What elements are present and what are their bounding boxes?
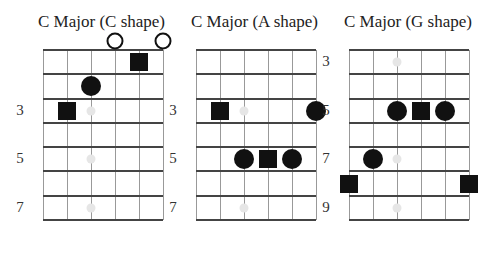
chord-tone-circle-icon [363,149,383,169]
chord-title: C Major (C shape) [38,12,165,32]
fret-number-label: 3 [316,53,336,70]
fretboard-grid [196,50,316,220]
fret-number-label: 5 [316,102,336,119]
fret-line [43,122,163,124]
inlay-dot-icon [393,203,402,212]
fret-number-label: 7 [163,199,183,216]
fret-line [196,146,316,148]
fret-line [43,49,163,51]
fret-line [196,195,316,197]
root-note-square-icon [460,175,478,193]
inlay-dot-icon [240,106,249,115]
inlay-dot-icon [87,203,96,212]
inlay-dot-icon [87,106,96,115]
open-string-icon [107,33,124,50]
fret-line [196,98,316,100]
fret-number-label: 5 [163,150,183,167]
root-note-square-icon [259,150,277,168]
fret-line [43,219,163,221]
chord-tone-circle-icon [234,149,254,169]
fret-line [43,170,163,172]
fret-line [196,49,316,51]
open-string-icon [155,33,172,50]
fret-line [349,170,469,172]
root-note-square-icon [58,102,76,120]
string-line [163,50,164,220]
fret-line [349,98,469,100]
fret-line [196,73,316,75]
fret-line [349,49,469,51]
inlay-dot-icon [87,155,96,164]
root-note-square-icon [412,102,430,120]
fret-line [196,219,316,221]
fret-line [349,122,469,124]
chord-tone-circle-icon [81,76,101,96]
fret-line [43,146,163,148]
fret-line [349,73,469,75]
chord-tone-circle-icon [387,101,407,121]
root-note-square-icon [340,175,358,193]
string-line [316,50,317,220]
inlay-dot-icon [240,203,249,212]
fretboard-grid [43,50,163,220]
fret-line [349,219,469,221]
string-line [469,50,470,220]
root-note-square-icon [130,53,148,71]
fret-line [196,122,316,124]
chord-title: C Major (G shape) [344,12,472,32]
root-note-square-icon [211,102,229,120]
fret-number-label: 5 [10,150,30,167]
chord-tone-circle-icon [435,101,455,121]
chord-tone-circle-icon [282,149,302,169]
inlay-dot-icon [393,58,402,67]
fret-number-label: 3 [10,102,30,119]
fret-line [196,170,316,172]
fretboard-grid [349,50,469,220]
fret-number-label: 3 [163,102,183,119]
fret-line [43,195,163,197]
fret-number-label: 7 [316,150,336,167]
fret-number-label: 9 [316,199,336,216]
fret-number-label: 7 [10,199,30,216]
fret-line [349,195,469,197]
fret-line [43,98,163,100]
inlay-dot-icon [393,155,402,164]
fret-line [43,73,163,75]
chord-title: C Major (A shape) [191,12,318,32]
fret-line [349,146,469,148]
